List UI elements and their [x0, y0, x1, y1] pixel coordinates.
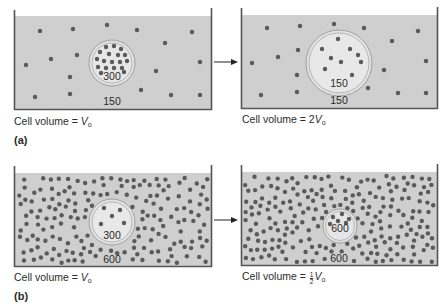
solute-particle [98, 50, 102, 54]
solute-particle [118, 208, 122, 212]
solute-particle [384, 253, 388, 257]
solute-particle [326, 174, 330, 178]
solute-particle [388, 224, 392, 228]
solute-particle [387, 182, 391, 186]
solute-particle [135, 28, 139, 32]
solute-particle [314, 251, 318, 255]
solute-particle [276, 228, 280, 232]
solute-particle [313, 175, 317, 179]
solute-particle [59, 261, 63, 265]
solute-particle [135, 252, 139, 256]
solute-particle [119, 47, 123, 51]
solute-particle [263, 248, 267, 252]
solute-particle [378, 219, 382, 223]
solute-particle [158, 218, 162, 222]
solute-particle [137, 234, 141, 238]
solute-particle [23, 198, 27, 202]
solute-particle [273, 221, 277, 225]
solute-particle [182, 218, 186, 222]
solute-particle [134, 195, 138, 199]
solute-particle [267, 216, 271, 220]
caption-b-initial: Cell volume = Vo [14, 271, 92, 284]
solute-particle [300, 220, 304, 224]
solute-particle [406, 221, 410, 225]
solute-particle [401, 245, 405, 249]
solute-particle [155, 177, 159, 181]
solute-particle [189, 246, 193, 250]
solute-particle [156, 249, 160, 253]
solute-particle [169, 215, 173, 219]
solute-particle [151, 227, 155, 231]
solute-particle [416, 29, 420, 33]
solute-particle [182, 206, 186, 210]
solute-particle [68, 92, 72, 96]
solute-particle [276, 245, 280, 249]
solute-particle [93, 254, 97, 258]
solute-particle [68, 75, 72, 79]
solute-particle [280, 250, 284, 254]
solute-particle [295, 181, 299, 185]
solute-particle [295, 192, 299, 196]
solute-particle [29, 209, 33, 213]
solute-particle [122, 250, 126, 254]
solute-particle [115, 190, 119, 194]
solute-particle [289, 206, 293, 210]
solute-particle [389, 258, 393, 262]
solute-particle [49, 57, 53, 61]
solute-particle [249, 248, 253, 252]
solute-particle [391, 176, 395, 180]
solute-particle [401, 213, 405, 217]
solute-particle [83, 215, 87, 219]
solute-particle [384, 174, 388, 178]
solute-particle [92, 179, 96, 183]
solute-particle [283, 220, 287, 224]
solute-particle [52, 247, 56, 251]
solute-particle [199, 192, 203, 196]
solute-particle [30, 199, 34, 203]
solute-particle [389, 204, 393, 208]
solute-particle [185, 254, 189, 258]
solute-particle [373, 214, 377, 218]
solute-particle [189, 210, 193, 214]
solute-particle [163, 177, 167, 181]
solute-particle [260, 184, 264, 188]
volume-subscript: o [322, 119, 326, 126]
solute-particle [329, 56, 333, 60]
solute-particle [381, 204, 385, 208]
solute-particle [350, 73, 354, 77]
solute-particle [290, 220, 294, 224]
solute-particle [138, 183, 142, 187]
solute-particle [47, 205, 51, 209]
solute-particle [122, 70, 126, 74]
solute-particle [148, 183, 152, 187]
solute-particle [273, 257, 277, 261]
solute-particle [250, 212, 254, 216]
solute-particle [188, 188, 192, 192]
solute-particle [388, 213, 392, 217]
solute-particle [201, 185, 205, 189]
solute-particle [132, 178, 136, 182]
volume-symbol: V [81, 271, 88, 283]
solute-particle [259, 93, 263, 97]
solute-particle [394, 185, 398, 189]
solute-particle [430, 236, 434, 240]
solute-particle [359, 179, 363, 183]
solute-particle [324, 210, 328, 214]
solute-particle [357, 192, 361, 196]
solute-particle [418, 260, 422, 264]
solute-particle [381, 259, 385, 263]
solute-particle [339, 60, 343, 64]
solute-particle [399, 224, 403, 228]
solute-particle [414, 232, 418, 236]
solute-particle [50, 257, 54, 261]
solute-particle [270, 246, 274, 250]
solute-particle [82, 246, 86, 250]
solute-particle [120, 184, 124, 188]
solute-particle [142, 246, 146, 250]
solute-particle [395, 241, 399, 245]
solute-particle [410, 216, 414, 220]
solute-particle [198, 93, 202, 97]
solute-particle [42, 197, 46, 201]
solute-particle [76, 216, 80, 220]
solute-particle [405, 233, 409, 237]
